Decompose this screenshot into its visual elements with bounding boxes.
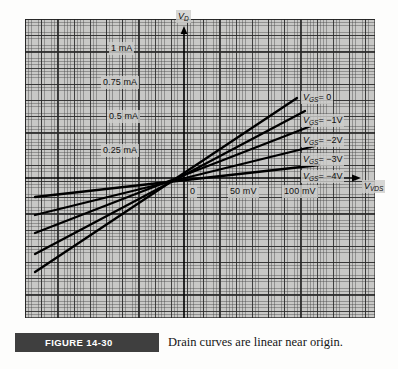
plot-svg (25, 19, 375, 318)
legend-subscript: GS (309, 96, 318, 103)
legend-subscript: GS (309, 139, 318, 146)
figure-number-banner: FIGURE 14-30 (15, 333, 159, 352)
legend-label-vgs-minus4: VGS= −4V (301, 170, 344, 183)
legend-value: = −1V (318, 115, 342, 125)
y-axis-title: VD (176, 10, 191, 23)
curve-vgs-minus2 (35, 126, 311, 233)
y-axis-title-subscript: D (184, 15, 189, 22)
drain-curves (35, 98, 319, 272)
legend-value: = −3V (318, 154, 342, 164)
y-tick-label-025ma: 0.25 mA (101, 144, 139, 157)
figure-container: 1 mA 0.75 mA 0.5 mA 0.25 mA 0 50 mV 100 … (0, 0, 398, 369)
x-tick-label-100mv: 100 mV (282, 185, 318, 198)
legend-label-vgs-minus3: VGS= −3V (301, 153, 344, 166)
x-tick-label-0: 0 (188, 185, 197, 198)
x-axis-title-subscript: VDS (370, 185, 383, 192)
legend-label-vgs-0: VGS= 0 (301, 91, 333, 104)
legend-value: = −4V (318, 171, 342, 181)
figure-caption-row: FIGURE 14-30 Drain curves are linear nea… (0, 333, 398, 355)
legend-subscript: GS (309, 175, 318, 182)
legend-value: = 0 (318, 92, 331, 102)
plot-area: 1 mA 0.75 mA 0.5 mA 0.25 mA 0 50 mV 100 … (25, 19, 375, 318)
figure-caption-text: Drain curves are linear near origin. (168, 335, 343, 350)
legend-label-vgs-minus2: VGS= −2V (301, 134, 344, 147)
x-axis-title: VVDS (362, 180, 385, 193)
legend-subscript: GS (309, 119, 318, 126)
curve-vgs-minus4 (35, 165, 319, 197)
y-tick-label-1ma: 1 mA (109, 42, 134, 55)
x-tick-label-50mv: 50 mV (228, 185, 259, 198)
y-axis-arrowhead (181, 26, 188, 34)
y-tick-label-05ma: 0.5 mA (107, 110, 140, 123)
x-axis-arrowhead (352, 174, 361, 181)
legend-value: = −2V (318, 135, 342, 145)
legend-subscript: GS (309, 158, 318, 165)
legend-label-vgs-minus1: VGS= −1V (301, 114, 344, 127)
y-tick-label-075ma: 0.75 mA (101, 76, 139, 89)
figure-number-label: FIGURE 14-30 (45, 337, 113, 348)
